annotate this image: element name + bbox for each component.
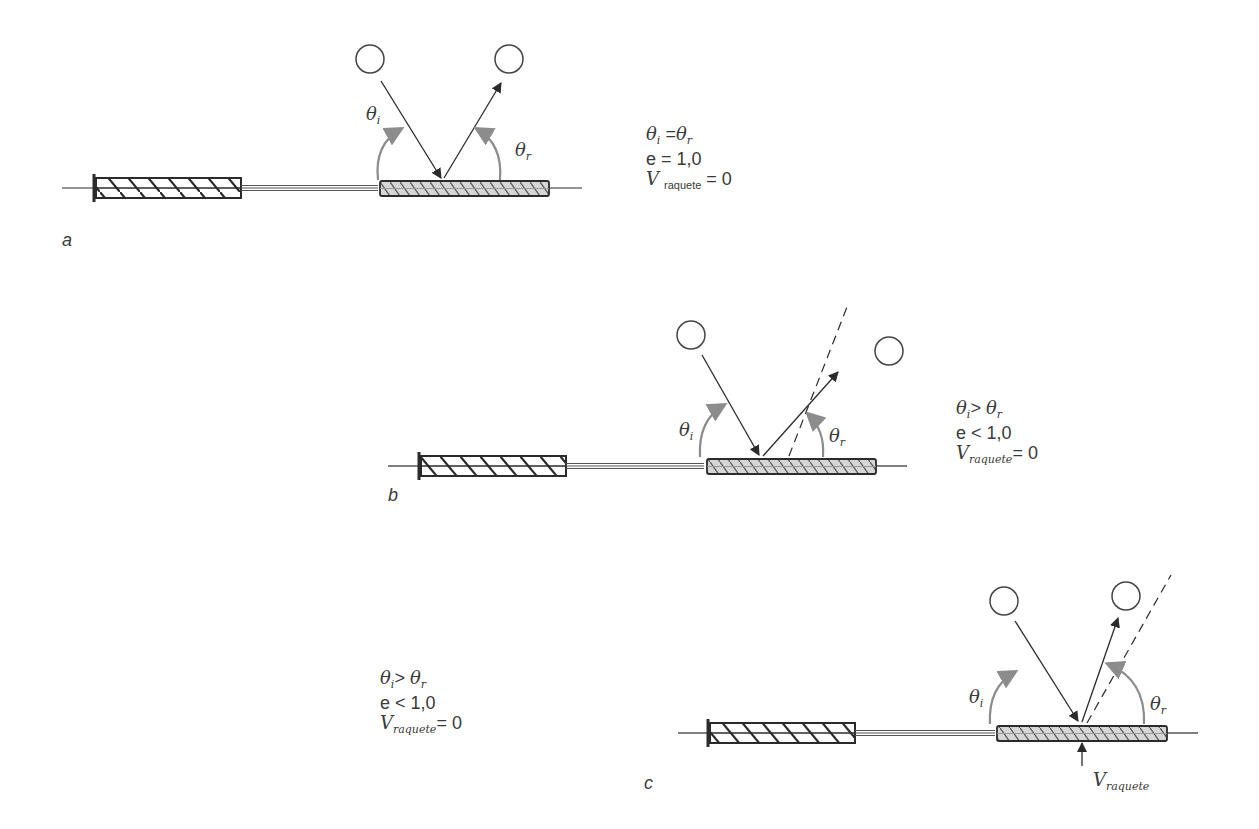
theta-symbol: θ bbox=[1150, 693, 1161, 714]
ball-outgoing-icon bbox=[1112, 582, 1140, 610]
equations-panel-c: θi> θr e < 1,0 Vraquete= 0 bbox=[380, 668, 462, 739]
panel-label-b: b bbox=[388, 485, 398, 506]
angle-incident-label: θi bbox=[679, 419, 693, 443]
panel-label-c: c bbox=[644, 773, 653, 794]
theta-symbol: θ bbox=[679, 419, 690, 440]
theta-symbol: θ bbox=[986, 397, 997, 418]
racket-velocity: Vraquete= 0 bbox=[956, 443, 1038, 469]
operator: = bbox=[660, 124, 676, 144]
reflected-arrow-icon bbox=[1082, 618, 1118, 722]
subscript: r bbox=[687, 134, 692, 147]
theta-symbol: θ bbox=[676, 123, 687, 144]
racket-head bbox=[997, 726, 1167, 741]
equations-panel-b: θi> θr e < 1,0 Vraquete= 0 bbox=[956, 398, 1038, 469]
velocity-symbol: V bbox=[1093, 769, 1106, 790]
incident-arrow-icon bbox=[1015, 621, 1078, 721]
angle-relation: θi> θr bbox=[956, 398, 1038, 424]
panel-label-a: a bbox=[62, 230, 72, 251]
panel-c bbox=[678, 575, 1198, 766]
ball-outgoing-icon bbox=[495, 45, 523, 73]
operator: > bbox=[970, 398, 986, 418]
theta-symbol: θ bbox=[515, 139, 526, 160]
angle-reflected-label: θr bbox=[515, 139, 531, 163]
racket-velocity-label: Vraquete bbox=[1093, 769, 1149, 793]
angle-incident-arc-icon bbox=[377, 129, 401, 180]
racket-handle bbox=[419, 452, 566, 480]
racket-head bbox=[380, 181, 549, 196]
subscript: i bbox=[690, 430, 694, 443]
panel-a bbox=[62, 45, 582, 202]
subscript: r bbox=[997, 408, 1002, 421]
racket-velocity: Vraquete= 0 bbox=[380, 713, 462, 739]
velocity-value: = 0 bbox=[436, 713, 462, 733]
angle-incident-label: θi bbox=[366, 103, 380, 127]
ball-incoming-icon bbox=[356, 45, 384, 73]
racket-velocity: V raquete = 0 bbox=[646, 169, 732, 195]
subscript: i bbox=[377, 114, 381, 127]
angle-reflected-label: θr bbox=[1150, 693, 1166, 717]
subscript: raquete bbox=[1106, 780, 1149, 793]
angle-reflected-arc-icon bbox=[477, 129, 500, 180]
racket-ball-diagram bbox=[0, 0, 1259, 829]
velocity-value: = 0 bbox=[701, 169, 732, 189]
subscript: r bbox=[421, 678, 426, 691]
subscript: raquete bbox=[664, 179, 701, 191]
racket-shaft bbox=[566, 464, 704, 469]
theta-symbol: θ bbox=[829, 425, 840, 446]
reflected-arrow-icon bbox=[444, 83, 501, 178]
restitution-coefficient: e = 1,0 bbox=[646, 150, 732, 169]
subscript: r bbox=[526, 150, 531, 163]
ball-incoming-icon bbox=[677, 321, 705, 349]
velocity-symbol: V bbox=[380, 712, 393, 733]
restitution-coefficient: e < 1,0 bbox=[956, 424, 1038, 443]
racket-shaft bbox=[855, 731, 995, 736]
angle-relation: θi =θr bbox=[646, 124, 732, 150]
velocity-symbol: V bbox=[646, 168, 659, 189]
racket-handle bbox=[708, 719, 855, 747]
racket-handle bbox=[94, 174, 241, 202]
theta-symbol: θ bbox=[969, 686, 980, 707]
velocity-symbol: V bbox=[956, 442, 969, 463]
equations-panel-a: θi =θr e = 1,0 V raquete = 0 bbox=[646, 124, 732, 195]
theta-symbol: θ bbox=[366, 103, 377, 124]
subscript: raquete bbox=[393, 723, 436, 736]
operator: > bbox=[394, 668, 410, 688]
angle-relation: θi> θr bbox=[380, 668, 462, 694]
angle-reflected-arc-icon bbox=[808, 414, 823, 457]
angle-reflected-arc-icon bbox=[1108, 664, 1144, 724]
theta-symbol: θ bbox=[956, 397, 967, 418]
subscript: raquete bbox=[969, 453, 1012, 466]
angle-incident-arc-icon bbox=[700, 405, 724, 457]
subscript: r bbox=[1161, 704, 1166, 717]
ball-incoming-icon bbox=[990, 587, 1018, 615]
theta-symbol: θ bbox=[646, 123, 657, 144]
velocity-value: = 0 bbox=[1012, 443, 1038, 463]
theta-symbol: θ bbox=[410, 667, 421, 688]
incident-arrow-icon bbox=[381, 81, 441, 178]
racket-shaft bbox=[241, 186, 378, 191]
panel-b bbox=[388, 307, 907, 480]
angle-reflected-label: θr bbox=[829, 425, 845, 449]
restitution-coefficient: e < 1,0 bbox=[380, 694, 462, 713]
angle-incident-arc-icon bbox=[990, 672, 1015, 724]
subscript: r bbox=[840, 436, 845, 449]
subscript: i bbox=[980, 697, 984, 710]
ball-outgoing-icon bbox=[875, 337, 903, 365]
racket-head bbox=[707, 459, 876, 474]
incident-arrow-icon bbox=[702, 355, 759, 455]
angle-incident-label: θi bbox=[969, 686, 983, 710]
reflected-arrow-icon bbox=[763, 372, 838, 456]
theta-symbol: θ bbox=[380, 667, 391, 688]
